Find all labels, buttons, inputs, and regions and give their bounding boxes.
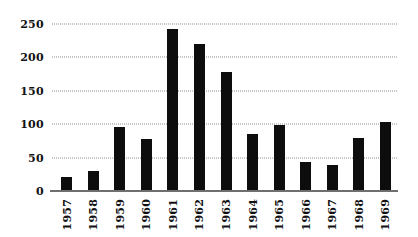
bar bbox=[380, 122, 391, 191]
x-axis-tick-label: 1958 bbox=[88, 199, 99, 230]
x-axis-tick-label: 1961 bbox=[167, 199, 178, 230]
x-axis-tick-label: 1959 bbox=[114, 199, 125, 230]
bar bbox=[221, 72, 232, 191]
y-axis-tick-label: 200 bbox=[0, 52, 44, 63]
x-axis-tick: 1965 bbox=[274, 191, 285, 237]
x-axis-tick-label: 1969 bbox=[380, 199, 391, 230]
x-axis-tick-label: 1960 bbox=[141, 199, 152, 230]
x-axis-tick-label: 1965 bbox=[274, 199, 285, 230]
x-axis-tick: 1962 bbox=[194, 191, 205, 237]
bar bbox=[327, 165, 338, 191]
bar bbox=[141, 139, 152, 191]
x-axis-tick-label: 1957 bbox=[61, 199, 72, 230]
bar bbox=[247, 134, 258, 191]
x-axis-tick: 1963 bbox=[221, 191, 232, 237]
bar bbox=[167, 29, 178, 191]
y-axis: 050100150200250 bbox=[0, 0, 44, 237]
bar bbox=[300, 162, 311, 191]
x-axis-tick: 1967 bbox=[327, 191, 338, 237]
x-axis-tick-label: 1962 bbox=[194, 199, 205, 230]
bar bbox=[353, 138, 364, 191]
x-axis: 1957195819591960196119621963196419651966… bbox=[52, 191, 397, 237]
y-axis-tick-label: 250 bbox=[0, 19, 44, 30]
y-axis-tick-label: 150 bbox=[0, 85, 44, 96]
x-axis-tick-label: 1968 bbox=[353, 199, 364, 230]
x-axis-tick: 1957 bbox=[61, 191, 72, 237]
bar bbox=[61, 177, 72, 191]
y-axis-tick-label: 0 bbox=[0, 186, 44, 197]
x-axis-tick: 1960 bbox=[141, 191, 152, 237]
x-axis-tick: 1969 bbox=[380, 191, 391, 237]
bars-layer bbox=[52, 24, 397, 191]
x-axis-tick-label: 1963 bbox=[221, 199, 232, 230]
x-axis-tick: 1961 bbox=[167, 191, 178, 237]
x-axis-tick: 1959 bbox=[114, 191, 125, 237]
bar bbox=[194, 44, 205, 191]
bar-chart: 050100150200250 195719581959196019611962… bbox=[0, 0, 418, 237]
bar bbox=[88, 171, 99, 191]
x-axis-tick: 1966 bbox=[300, 191, 311, 237]
y-axis-tick-label: 100 bbox=[0, 119, 44, 130]
x-axis-tick: 1958 bbox=[88, 191, 99, 237]
x-axis-tick: 1968 bbox=[353, 191, 364, 237]
bar bbox=[114, 127, 125, 191]
x-axis-tick: 1964 bbox=[247, 191, 258, 237]
x-axis-tick-label: 1966 bbox=[300, 199, 311, 230]
bar bbox=[274, 125, 285, 191]
y-axis-tick-label: 50 bbox=[0, 152, 44, 163]
x-axis-tick-label: 1967 bbox=[327, 199, 338, 230]
x-axis-tick-label: 1964 bbox=[247, 199, 258, 230]
